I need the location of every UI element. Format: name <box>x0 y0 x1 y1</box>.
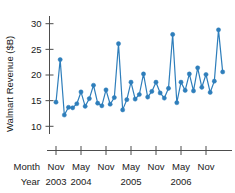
data-point-marker <box>87 97 91 101</box>
data-point-marker <box>104 88 108 92</box>
data-point-marker <box>208 90 212 94</box>
data-point-marker <box>137 92 141 96</box>
data-point-marker <box>146 95 150 99</box>
data-point-marker <box>83 104 87 108</box>
data-point-marker <box>71 106 75 110</box>
data-point-marker <box>79 90 83 94</box>
data-point-marker <box>175 101 179 105</box>
x-axis-year-label: 2004 <box>70 176 91 187</box>
data-point-marker <box>54 100 58 104</box>
data-point-marker <box>216 28 220 32</box>
data-point-marker <box>171 32 175 36</box>
data-point-marker <box>158 91 162 95</box>
data-point-marker <box>196 66 200 70</box>
series-line <box>56 30 223 115</box>
data-point-marker <box>221 70 225 74</box>
data-point-marker <box>183 88 187 92</box>
data-point-marker <box>96 101 100 105</box>
y-axis-title: Walmart Revenue ($B) <box>4 36 15 132</box>
x-axis-month-label: May <box>122 161 140 172</box>
x-axis-month-label: Nov <box>98 161 115 172</box>
data-point-marker <box>58 58 62 62</box>
data-point-marker <box>200 85 204 89</box>
y-axis-tick-label: 10 <box>31 121 42 132</box>
data-point-marker <box>179 80 183 84</box>
data-point-marker <box>150 89 154 93</box>
y-axis-tick-label: 15 <box>31 95 42 106</box>
data-point-marker <box>75 102 79 106</box>
x-axis-year-label: 2005 <box>120 176 141 187</box>
x-axis-year-label: 2006 <box>170 176 191 187</box>
data-point-marker <box>108 102 112 106</box>
x-axis-month-row-header: Month <box>14 161 40 172</box>
y-axis-tick-label: 20 <box>31 69 42 80</box>
x-axis-year-label: 2003 <box>45 176 66 187</box>
data-point-marker <box>100 104 104 108</box>
y-axis-tick-label: 25 <box>31 44 42 55</box>
data-point-marker <box>133 97 137 101</box>
x-axis-month-label: Nov <box>48 161 65 172</box>
data-point-marker <box>162 96 166 100</box>
chart-figure: 1015202530 Walmart Revenue ($B)NovMayNov… <box>0 0 235 193</box>
x-axis <box>47 146 232 155</box>
data-point-marker <box>166 86 170 90</box>
x-axis-month-label: May <box>72 161 90 172</box>
data-point-marker <box>66 105 70 109</box>
x-axis-month-label: Nov <box>198 161 215 172</box>
data-point-marker <box>62 113 66 117</box>
data-point-marker <box>121 108 125 112</box>
data-point-marker <box>129 80 133 84</box>
data-point-marker <box>125 98 129 102</box>
data-point-marker <box>154 80 158 84</box>
data-point-marker <box>141 72 145 76</box>
data-point-marker <box>191 89 195 93</box>
revenue-line-chart: 1015202530 Walmart Revenue ($B)NovMayNov… <box>0 0 235 193</box>
x-axis-month-label: May <box>172 161 190 172</box>
y-axis-tick-label: 30 <box>31 18 42 29</box>
data-point-marker <box>91 83 95 87</box>
y-axis: 1015202530 <box>31 16 54 134</box>
data-point-marker <box>187 72 191 76</box>
x-axis-year-row-header: Year <box>21 176 40 187</box>
data-point-marker <box>116 42 120 46</box>
x-axis-month-label: Nov <box>148 161 165 172</box>
axis-labels: Walmart Revenue ($B)NovMayNovMayNovMayNo… <box>4 36 215 187</box>
data-series-walmart-revenue <box>54 28 225 117</box>
data-point-marker <box>212 79 216 83</box>
data-point-marker <box>204 72 208 76</box>
data-point-marker <box>112 95 116 99</box>
